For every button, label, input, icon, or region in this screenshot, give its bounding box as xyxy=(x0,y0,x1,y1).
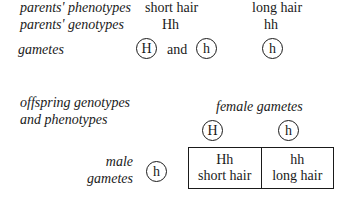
punnett-square: Hh short hair hh long hair xyxy=(188,147,334,189)
parents-phenotypes-label: parents' phenotypes xyxy=(20,0,131,16)
gametes-label: gametes xyxy=(18,42,64,58)
parent1-phenotype: short hair xyxy=(145,0,198,16)
punnett-cell-1-phenotype: short hair xyxy=(198,168,251,184)
gamete-circle-h: h xyxy=(196,38,217,59)
male-gametes-label-line1: male xyxy=(95,154,133,170)
punnett-cell-1-genotype: Hh xyxy=(216,152,233,168)
punnett-cell-2-phenotype: long hair xyxy=(272,168,322,184)
gamete-circle-h-parent2: h xyxy=(262,38,283,59)
punnett-cell-1: Hh short hair xyxy=(189,148,261,188)
parent2-phenotype: long hair xyxy=(252,0,302,16)
parents-genotypes-label: parents' genotypes xyxy=(20,17,124,33)
gametes-connector: and xyxy=(167,42,187,58)
punnett-cell-2-genotype: hh xyxy=(290,152,304,168)
gamete-circle-H: H xyxy=(136,38,157,59)
offspring-label-line1: offspring genotypes xyxy=(20,95,130,111)
parent1-genotype: Hh xyxy=(162,17,179,33)
female-gamete-circle-H: H xyxy=(202,120,223,141)
female-gamete-circle-h: h xyxy=(278,120,299,141)
female-gametes-label: female gametes xyxy=(216,99,303,115)
male-gamete-circle-h: h xyxy=(146,161,167,182)
parent2-genotype: hh xyxy=(264,17,278,33)
offspring-label-line2: and phenotypes xyxy=(20,112,107,128)
punnett-cell-2: hh long hair xyxy=(261,148,334,188)
male-gametes-label-line2: gametes xyxy=(85,171,133,187)
